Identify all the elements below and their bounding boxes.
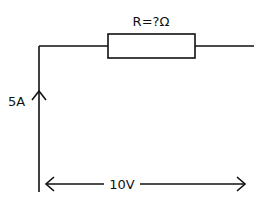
current-label: 5A: [8, 94, 25, 109]
voltage-label: 10V: [109, 177, 135, 192]
resistor: [108, 34, 195, 58]
resistor-label: R=?Ω: [133, 14, 170, 29]
circuit-diagram: R=?Ω 5A 10V: [0, 0, 254, 208]
